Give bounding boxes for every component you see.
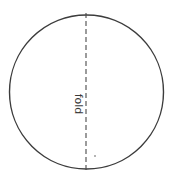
circle-fold-drawing bbox=[0, 0, 180, 184]
fold-diagram: fold bbox=[0, 0, 180, 184]
fold-label: fold bbox=[66, 92, 90, 116]
small-dot bbox=[94, 155, 96, 157]
